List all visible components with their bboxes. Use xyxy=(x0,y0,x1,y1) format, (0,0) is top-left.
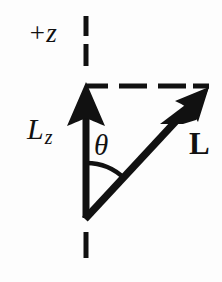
component-label-lz-subscript: z xyxy=(45,126,53,148)
angle-label-theta-text: θ xyxy=(94,129,108,161)
axis-label-positive-z-text: +z xyxy=(28,18,57,48)
vector-label-l: L xyxy=(189,128,210,159)
component-label-lz-base: L xyxy=(27,112,44,145)
axis-label-positive-z: +z xyxy=(28,20,57,47)
component-label-lz: Lz xyxy=(27,114,52,147)
angle-label-theta: θ xyxy=(94,131,108,160)
vector-label-l-text: L xyxy=(189,126,210,161)
angle-arc xyxy=(86,163,125,179)
angular-momentum-diagram: +z Lz θ L xyxy=(0,0,222,282)
